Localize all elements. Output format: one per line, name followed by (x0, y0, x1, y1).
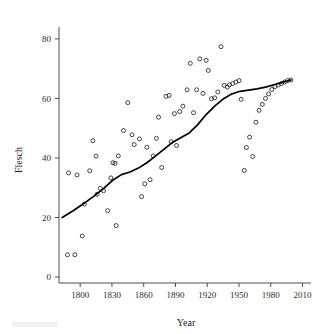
data-point (254, 120, 258, 124)
x-tick-label: 1860 (135, 290, 154, 300)
data-point (206, 68, 210, 72)
data-point (130, 133, 134, 137)
data-point (122, 129, 126, 133)
y-tick-label: 20 (42, 213, 52, 223)
loess-fit-line (62, 80, 291, 218)
data-point (148, 178, 152, 182)
y-tick-label: 60 (42, 94, 52, 104)
data-point (65, 253, 69, 257)
data-point (188, 61, 192, 65)
data-point (219, 45, 223, 49)
data-point (216, 90, 220, 94)
y-tick-label: 80 (42, 34, 52, 44)
data-point (114, 224, 118, 228)
data-point (257, 108, 261, 112)
x-tick-label: 1890 (166, 290, 185, 300)
data-point (88, 169, 92, 173)
data-point (154, 136, 158, 140)
data-point (106, 209, 110, 213)
x-tick-label: 1830 (103, 290, 122, 300)
chart-figure: 020406080 180018301860189019201950198020… (0, 0, 322, 334)
data-point (251, 154, 255, 158)
data-point (201, 91, 205, 95)
x-tick-label: 2010 (294, 290, 313, 300)
data-point (143, 182, 147, 186)
x-tick-label: 1980 (262, 290, 281, 300)
data-point (185, 88, 189, 92)
data-point (160, 166, 164, 170)
data-point-group (65, 45, 292, 257)
data-point (137, 137, 141, 141)
y-axis-title: Flesch (13, 147, 24, 173)
x-axis-ticks: 18001830186018901920195019802010 (71, 283, 312, 300)
data-point (178, 110, 182, 114)
caption-smudge (12, 322, 58, 327)
data-point (195, 88, 199, 92)
data-point (244, 146, 248, 150)
x-tick-label: 1800 (71, 290, 90, 300)
data-point (116, 154, 120, 158)
data-point (145, 145, 149, 149)
data-point (126, 101, 130, 105)
data-point (94, 154, 98, 158)
data-point (109, 176, 113, 180)
data-point (140, 195, 144, 199)
scatter-plot: 020406080 180018301860189019201950198020… (0, 0, 322, 334)
data-point (239, 97, 243, 101)
data-point (260, 102, 264, 106)
y-axis-ticks: 020406080 (42, 34, 59, 282)
data-point (175, 143, 179, 147)
x-tick-label: 1950 (230, 290, 249, 300)
x-axis-title: Year (177, 317, 196, 328)
data-point (181, 104, 185, 108)
data-point (191, 111, 195, 115)
data-point (80, 234, 84, 238)
y-tick-label: 40 (42, 153, 52, 163)
data-point (204, 58, 208, 62)
data-point (75, 173, 79, 177)
axis-spines (59, 27, 311, 283)
data-point (132, 143, 136, 147)
data-point (157, 115, 161, 119)
data-point (263, 96, 267, 100)
data-point (73, 253, 77, 257)
x-tick-label: 1920 (198, 290, 217, 300)
data-point (172, 112, 176, 116)
data-point (267, 92, 271, 96)
data-point (67, 171, 71, 175)
y-tick-label: 0 (47, 272, 52, 282)
data-point (242, 168, 246, 172)
data-point (248, 135, 252, 139)
data-point (198, 57, 202, 61)
data-point (91, 139, 95, 143)
